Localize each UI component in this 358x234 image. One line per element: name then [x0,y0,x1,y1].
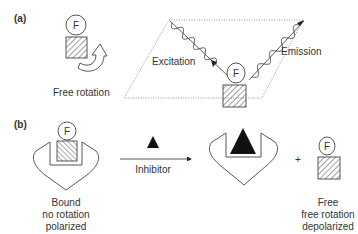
free-rotation-label: Free rotation [53,87,110,98]
bound-complex: F [33,122,98,190]
free-caption-line-2: free rotation [301,209,354,220]
bound-inhibitor-triangle-icon [230,128,256,154]
bound-caption-line-1: Bound [52,197,81,208]
hatched-block [57,141,77,161]
plus-sign: + [295,154,301,165]
inhibitor-label: Inhibitor [135,164,171,175]
bound-caption-line-3: polarized [46,221,87,232]
emission-label: Emission [281,46,322,57]
fluorophore-label: F [324,141,330,152]
hatched-block [66,37,87,58]
free-caption-line-1: Free [318,197,339,208]
fluorophore-label: F [233,68,239,79]
excitation-label: Excitation [152,56,195,67]
inhibited-complex [209,128,277,185]
hatched-block [223,85,246,107]
fluorophore-label: F [73,20,79,31]
polarization-plane [124,20,303,98]
free-caption-line-3: depolarized [302,221,354,232]
panel-b-label: (b) [14,119,27,130]
panel-a-label: (a) [14,13,26,24]
inhibitor-triangle-icon [147,136,159,148]
oriented-fluorophore: F [223,63,246,107]
bound-caption-line-2: no rotation [42,209,89,220]
free-fluorophore-b: F [318,137,340,179]
fluorescence-polarization-diagram: (a) F Free rotation Excitation F Emissio… [0,0,358,234]
hatched-block [318,157,340,179]
free-fluorophore-a: F [66,15,87,58]
fluorophore-label: F [64,126,70,137]
